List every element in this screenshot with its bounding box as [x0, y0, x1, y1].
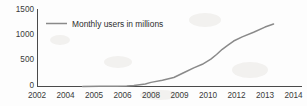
x-tick-label-2004: 2004 [56, 91, 75, 100]
x-tick-label-2013: 2013 [256, 91, 275, 100]
y-tick-label-1500: 1500 [16, 5, 35, 14]
legend: Monthly users in millions [46, 19, 163, 29]
x-tick-label-2014: 2014 [284, 91, 303, 100]
x-tick-label-2005: 2005 [85, 91, 104, 100]
legend-label-monthly-users: Monthly users in millions [72, 19, 163, 29]
y-axis: 1500 1000 500 0 [16, 5, 38, 90]
x-tick-label-2012: 2012 [227, 91, 246, 100]
x-tick-label-2002: 2002 [28, 91, 47, 100]
y-tick-label-0: 0 [29, 81, 34, 90]
chart-container: 1500 1000 500 0 2002 2004 2005 2006 2008… [0, 0, 307, 106]
y-tick-label-500: 500 [20, 55, 34, 64]
x-tick-label-2010: 2010 [199, 91, 218, 100]
x-tick-label-2008: 2008 [142, 91, 161, 100]
x-tick-label-2009: 2009 [170, 91, 189, 100]
line-chart: 1500 1000 500 0 2002 2004 2005 2006 2008… [0, 0, 307, 106]
y-tick-label-1000: 1000 [16, 30, 35, 39]
x-tick-label-2006: 2006 [113, 91, 132, 100]
